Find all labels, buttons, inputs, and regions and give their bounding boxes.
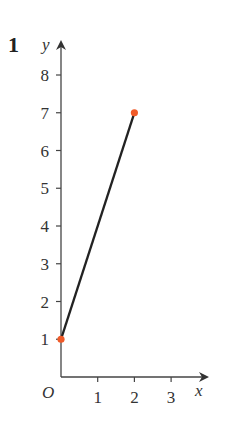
y-tick-label: 6: [41, 142, 50, 161]
data-series: [61, 113, 134, 340]
line-segment: [61, 113, 134, 340]
x-tick-label: 2: [130, 388, 139, 407]
y-ticks: 12345678: [41, 66, 62, 349]
x-tick-label: 3: [167, 388, 176, 407]
x-axis-label: x: [194, 381, 203, 400]
y-axis-label: y: [40, 35, 50, 54]
y-tick-label: 4: [41, 217, 50, 236]
x-ticks: 123: [93, 377, 175, 407]
y-tick-label: 8: [41, 66, 50, 85]
data-point: [131, 109, 138, 116]
y-tick-label: 3: [41, 255, 50, 274]
y-tick-label: 1: [41, 330, 50, 349]
y-tick-label: 5: [41, 179, 50, 198]
origin-label: O: [42, 383, 54, 402]
x-tick-label: 1: [93, 388, 102, 407]
data-point: [57, 336, 64, 343]
y-tick-label: 2: [41, 293, 50, 312]
line-graph: 1 y x O 12345678 123: [0, 0, 233, 425]
y-tick-label: 7: [41, 104, 50, 123]
question-number: 1: [8, 32, 19, 57]
